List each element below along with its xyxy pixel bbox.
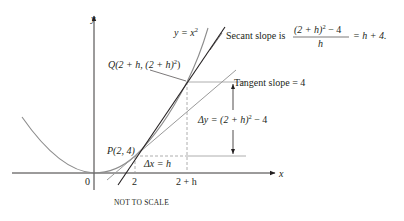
- x-axis-label: x: [278, 168, 284, 179]
- secant-slope-label: Secant slope is: [226, 30, 286, 41]
- point-q-label: Q(2 + h, (2 + h)2): [108, 58, 180, 71]
- delta-y-label: Δy = (2 + h)2 − 4: [197, 113, 267, 126]
- y-axis-label: y: [90, 13, 96, 24]
- not-to-scale-note: NOT TO SCALE: [114, 198, 169, 207]
- secant-leader-line: [210, 33, 222, 50]
- delta-x-label: Δx = h: [143, 158, 171, 169]
- tick-2-label: 2: [132, 176, 137, 187]
- curve-label: y = x2: [173, 26, 198, 38]
- secant-numerator: (2 + h)2 − 4: [294, 23, 341, 36]
- tick-2-plus-h-label: 2 + h: [176, 176, 197, 187]
- secant-denominator: h: [318, 38, 323, 49]
- q-leader-line: [150, 70, 186, 81]
- point-p-label: P(2, 4): [106, 145, 135, 157]
- secant-result: = h + 4.: [353, 30, 387, 41]
- origin-label: 0: [85, 176, 90, 187]
- secant-line: [118, 27, 225, 185]
- secant-tangent-diagram: y x 0 2 2 + h y = x2 Q(2 + h, (2 + h)2) …: [0, 0, 404, 221]
- tangent-slope-label: Tangent slope = 4: [234, 77, 305, 88]
